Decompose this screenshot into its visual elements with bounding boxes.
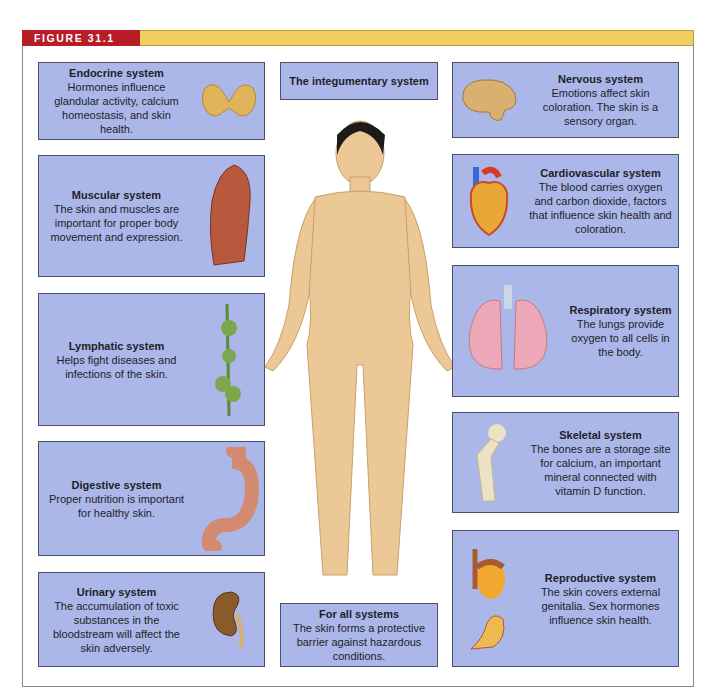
digestive-box: Digestive systemProper nutrition is impo… xyxy=(38,441,265,556)
box-body: The bones are a storage site for calcium… xyxy=(530,443,670,497)
box-title: Nervous system xyxy=(529,72,672,86)
box-title: For all systems xyxy=(281,607,437,621)
box-body: The lungs provide oxygen to all cells in… xyxy=(571,318,669,358)
figure-label: FIGURE 31.1 xyxy=(22,30,140,46)
box-title: Endocrine system xyxy=(45,66,188,80)
box-body: Helps fight diseases and infections of t… xyxy=(57,354,177,380)
box-title: Reproductive system xyxy=(529,571,672,585)
cardiovascular-box: Cardiovascular systemThe blood carries o… xyxy=(452,154,679,248)
box-title: Skeletal system xyxy=(529,428,672,442)
box-title: Respiratory system xyxy=(569,303,672,317)
box-title: Urinary system xyxy=(45,585,188,599)
box-title: Lymphatic system xyxy=(45,339,188,353)
box-body: Hormones influence glandular activity, c… xyxy=(54,81,179,135)
box-body: The skin and muscles are important for p… xyxy=(50,203,182,243)
box-title: Cardiovascular system xyxy=(529,166,672,180)
lungs-icon xyxy=(453,266,563,396)
all-systems-box: For all systems The skin forms a protect… xyxy=(280,603,438,667)
endocrine-box: Endocrine systemHormones influence gland… xyxy=(38,62,265,140)
reproductive-organ-icon xyxy=(453,531,523,666)
respiratory-box: Respiratory systemThe lungs provide oxyg… xyxy=(452,265,679,397)
lymphatic-box: Lymphatic systemHelps fight diseases and… xyxy=(38,293,265,426)
center-title: The integumentary system xyxy=(281,74,437,88)
urinary-box: Urinary systemThe accumulation of toxic … xyxy=(38,572,265,667)
muscular-box: Muscular systemThe skin and muscles are … xyxy=(38,155,265,277)
box-body: The skin forms a protective barrier agai… xyxy=(281,621,437,663)
reproductive-box: Reproductive systemThe skin covers exter… xyxy=(452,530,679,667)
heart-icon xyxy=(453,155,523,247)
human-figure-illustration xyxy=(245,105,475,600)
box-title: Muscular system xyxy=(45,188,188,202)
box-body: The skin covers external genitalia. Sex … xyxy=(541,586,660,626)
box-body: Proper nutrition is important for health… xyxy=(49,493,184,519)
box-title: Digestive system xyxy=(45,478,188,492)
box-body: Emotions affect skin coloration. The ski… xyxy=(543,87,658,127)
integumentary-title-box: The integumentary system xyxy=(280,62,438,100)
box-body: The accumulation of toxic substances in … xyxy=(53,600,180,654)
brain-icon xyxy=(453,63,523,137)
nervous-box: Nervous systemEmotions affect skin color… xyxy=(452,62,679,138)
bone-icon xyxy=(453,413,523,512)
skeletal-box: Skeletal systemThe bones are a storage s… xyxy=(452,412,679,513)
box-body: The blood carries oxygen and carbon diox… xyxy=(529,181,672,235)
